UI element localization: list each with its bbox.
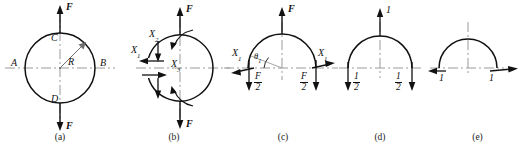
subfigure-d-drawing (337, 0, 423, 147)
force-bottom-label: F (186, 119, 193, 129)
reaction-left-denominator: 2 (254, 82, 262, 93)
subfigure-d-caption: (d) (337, 132, 423, 142)
subfigure-e: 1 1 (e) (428, 0, 527, 147)
subfigure-d: 1 1 2 1 2 (d) (337, 0, 423, 147)
reaction-right-fraction: 1 2 (395, 72, 402, 93)
x3-label-sub: 3 (177, 66, 180, 73)
force-bottom-arrowhead (177, 120, 184, 129)
x2-label-sub: 2 (155, 36, 158, 43)
reaction-left-denominator: 2 (353, 82, 360, 93)
angle-label-sub: 1 (258, 58, 261, 64)
force-top-label: F (186, 4, 193, 14)
subfigure-a-caption: (a) (0, 132, 120, 142)
reaction-right-numerator: 1 (395, 72, 402, 82)
force-top-arrowhead (57, 5, 64, 14)
figure-plate: F F A B C D R (a) (0, 0, 527, 147)
reaction-left-numerator: F (254, 72, 262, 82)
subfigure-b-drawing (118, 0, 230, 147)
unit-load-arrowhead (377, 8, 383, 17)
subfigure-b: F F X1 X2 X3 (b) (118, 0, 230, 147)
center-point (59, 67, 61, 69)
reaction-left-fraction: 1 2 (353, 72, 360, 93)
force-top-label: F (288, 4, 295, 14)
point-c-label: C (51, 33, 58, 43)
x3-upper-moment-arc (174, 30, 193, 46)
reaction-right-fraction: F 2 (300, 72, 308, 93)
x3-lower-moment-arc (174, 90, 193, 106)
x1-label-sub: 1 (137, 52, 140, 59)
x1-lower-arrowhead (158, 72, 167, 79)
unit-left-label: 1 (439, 73, 444, 83)
force-top-arrowhead (177, 7, 184, 16)
subfigure-b-caption: (b) (118, 132, 230, 142)
x3-label: X3 (171, 59, 181, 72)
x2-label: X2 (149, 29, 159, 42)
x3-lower-moment-arrowhead (170, 86, 177, 94)
force-top-label: F (66, 2, 73, 12)
point-a-label: A (11, 58, 17, 68)
unit-right-arrowhead (508, 66, 518, 73)
reaction-right-denominator: 2 (395, 82, 402, 93)
angle-label: θ1 (254, 52, 261, 63)
reaction-right-denominator: 2 (300, 82, 308, 93)
radius-label: R (68, 57, 74, 67)
reaction-right-numerator: F (300, 72, 308, 82)
reaction-left-arrowhead (345, 82, 352, 91)
reaction-left-fraction: F 2 (254, 72, 262, 93)
subfigure-c: F X1 X1 θ1 F 2 F 2 (c) (224, 0, 342, 147)
x1-label: X1 (131, 45, 141, 58)
reaction-right-arrowhead (313, 82, 320, 91)
x1-left-label: X1 (232, 48, 242, 61)
reaction-left-numerator: 1 (353, 72, 360, 82)
subfigure-a: F F A B C D R (a) (0, 0, 120, 147)
x1-right-label-sub: 1 (324, 55, 327, 62)
point-d-label: D (51, 94, 58, 104)
reaction-left-arrowhead (246, 82, 253, 91)
subfigure-a-drawing (0, 0, 120, 147)
subfigure-e-caption: (e) (428, 132, 527, 142)
force-top-arrowhead (279, 7, 286, 16)
x1-left-arrowhead (231, 69, 241, 76)
point-b-label: B (100, 58, 106, 68)
x3-upper-moment-arrowhead (170, 42, 177, 50)
unit-load-label: 1 (386, 5, 391, 15)
reaction-right-arrowhead (409, 82, 416, 91)
x1-right-label: X1 (318, 48, 328, 61)
unit-right-label: 1 (489, 73, 494, 83)
unit-left-arrowhead (428, 68, 437, 75)
subfigure-c-drawing (224, 0, 342, 147)
force-bottom-label: F (66, 121, 73, 131)
subfigure-c-caption: (c) (224, 132, 342, 142)
x1-left-label-sub: 1 (238, 55, 241, 62)
force-bottom-arrowhead (57, 122, 64, 131)
